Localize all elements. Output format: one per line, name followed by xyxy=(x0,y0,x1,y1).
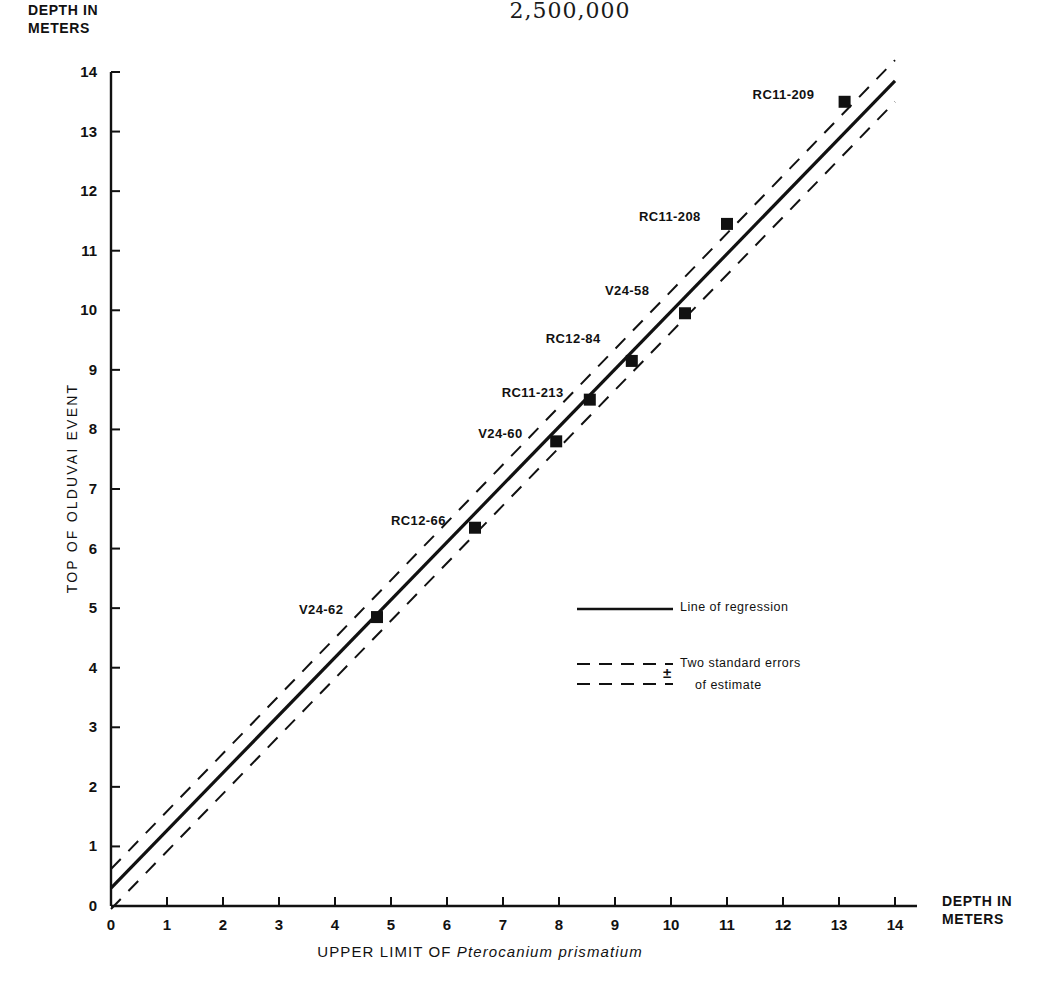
data-point-marker xyxy=(550,435,562,447)
y-tick-label: 13 xyxy=(63,123,97,140)
y-tick-label: 14 xyxy=(63,63,97,80)
y-tick-label: 3 xyxy=(63,718,97,735)
x-tick-label: 2 xyxy=(208,916,238,933)
legend-label-standard-errors-line2: of estimate xyxy=(695,678,762,692)
x-tick-label: 13 xyxy=(824,916,854,933)
data-point-markers xyxy=(371,96,851,623)
x-tick-label: 9 xyxy=(600,916,630,933)
figure-root: 2,500,000 DEPTH IN METERS DEPTH IN METER… xyxy=(0,0,1059,993)
y-tick-label: 8 xyxy=(63,420,97,437)
data-point-label: RC12-84 xyxy=(546,331,601,346)
x-tick-label: 7 xyxy=(488,916,518,933)
x-tick-label: 10 xyxy=(656,916,686,933)
y-tick-label: 6 xyxy=(63,540,97,557)
data-point-label: V24-62 xyxy=(299,602,343,617)
y-tick-label: 12 xyxy=(63,182,97,199)
data-point-label: V24-58 xyxy=(605,283,649,298)
data-point-label: RC11-213 xyxy=(502,385,564,400)
x-tick-label: 1 xyxy=(152,916,182,933)
data-point-marker xyxy=(679,307,691,319)
legend-plusminus-symbol: ± xyxy=(663,664,672,681)
y-tick-label: 7 xyxy=(63,480,97,497)
x-tick-label: 5 xyxy=(376,916,406,933)
y-tick-label: 2 xyxy=(63,778,97,795)
data-point-marker xyxy=(626,355,638,367)
data-point-marker xyxy=(839,96,851,108)
y-tick-label: 11 xyxy=(63,242,97,259)
x-tick-label: 3 xyxy=(264,916,294,933)
y-tick-label: 5 xyxy=(63,599,97,616)
x-tick-label: 0 xyxy=(96,916,126,933)
y-tick-label: 10 xyxy=(63,301,97,318)
axis-ticks xyxy=(111,72,895,906)
plot-canvas xyxy=(0,0,1059,993)
x-tick-label: 12 xyxy=(768,916,798,933)
x-tick-label: 6 xyxy=(432,916,462,933)
data-point-label: RC12-66 xyxy=(391,513,446,528)
legend-dashed-line-swatch xyxy=(575,658,675,692)
data-point-label: RC11-209 xyxy=(753,87,815,102)
data-point-label: V24-60 xyxy=(478,426,522,441)
y-tick-label: 4 xyxy=(63,659,97,676)
data-point-label: RC11-208 xyxy=(639,209,701,224)
data-point-marker xyxy=(371,611,383,623)
y-tick-label: 9 xyxy=(63,361,97,378)
x-tick-label: 8 xyxy=(544,916,574,933)
regression-line xyxy=(111,81,895,888)
legend-solid-line-swatch xyxy=(575,602,675,616)
x-tick-label: 14 xyxy=(880,916,910,933)
data-point-marker xyxy=(721,218,733,230)
x-tick-label: 4 xyxy=(320,916,350,933)
legend-row-regression: Line of regression xyxy=(575,600,875,622)
data-point-marker xyxy=(584,394,596,406)
legend: Line of regression ± Two standard errors… xyxy=(575,600,875,702)
legend-label-standard-errors-line1: Two standard errors xyxy=(680,656,801,670)
y-tick-label: 1 xyxy=(63,837,97,854)
axis-lines xyxy=(111,72,917,906)
x-tick-label: 11 xyxy=(712,916,742,933)
legend-label-regression: Line of regression xyxy=(680,600,788,614)
legend-row-standard-errors: ± Two standard errors of estimate xyxy=(575,656,875,702)
y-tick-label: 0 xyxy=(63,897,97,914)
data-point-marker xyxy=(469,522,481,534)
